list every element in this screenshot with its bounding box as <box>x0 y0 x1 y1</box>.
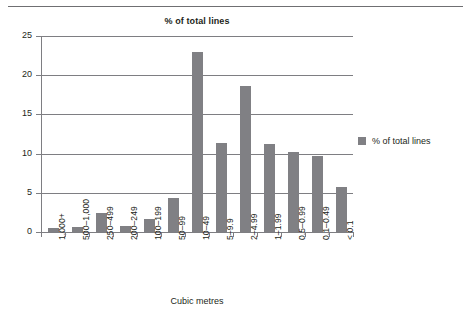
y-tick-label: 15 <box>6 109 32 118</box>
bar <box>192 52 203 232</box>
y-tick-mark <box>36 193 41 194</box>
chart-legend: % of total lines <box>358 136 431 146</box>
x-tick-mark <box>233 233 234 237</box>
legend-label: % of total lines <box>372 136 431 146</box>
x-tick-label: < 0.1 <box>345 220 355 240</box>
y-tick-mark <box>36 75 41 76</box>
y-tick-label: 25 <box>6 31 32 40</box>
y-tick-mark <box>36 36 41 37</box>
y-tick-label: 5 <box>6 188 32 197</box>
y-tick-label: 20 <box>6 70 32 79</box>
x-tick-mark <box>161 233 162 237</box>
chart-title: % of total lines <box>41 16 353 26</box>
y-tick-label: 0 <box>6 227 32 236</box>
x-tick-mark <box>281 233 282 237</box>
x-tick-mark <box>209 233 210 237</box>
x-tick-mark <box>41 233 42 237</box>
y-tick-mark <box>36 114 41 115</box>
x-tick-mark <box>185 233 186 237</box>
x-tick-mark <box>353 233 354 237</box>
x-tick-mark <box>137 233 138 237</box>
x-axis-title: Cubic metres <box>41 296 353 306</box>
y-tick-label: 10 <box>6 149 32 158</box>
legend-swatch-icon <box>358 137 366 145</box>
x-tick-mark <box>257 233 258 237</box>
bar <box>240 86 251 232</box>
gridline <box>41 36 353 37</box>
x-tick-mark <box>113 233 114 237</box>
x-tick-mark <box>89 233 90 237</box>
x-tick-mark <box>305 233 306 237</box>
x-tick-mark <box>329 233 330 237</box>
x-tick-mark <box>65 233 66 237</box>
chart-figure: % of total lines 0510152025 1,000+500–1,… <box>0 0 471 317</box>
y-tick-mark <box>36 154 41 155</box>
top-divider <box>8 6 463 7</box>
